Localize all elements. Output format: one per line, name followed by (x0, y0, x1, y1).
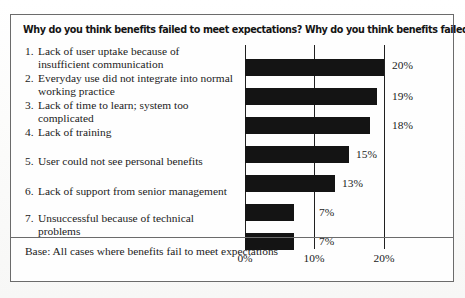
category-text-5: User could not see personal benefits (38, 155, 233, 168)
bar-1 (245, 59, 384, 76)
category-text-6: Lack of support from senior management (38, 185, 233, 198)
category-text-7: Unsuccessful because of technical proble… (38, 212, 233, 238)
xtick-label-20: 20% (374, 252, 395, 264)
category-label-2: 2. Everyday use did not integrate into n… (25, 72, 233, 98)
category-label-3: 3. Lack of time to learn; system too com… (25, 99, 233, 125)
category-number-2: 2. (25, 72, 38, 85)
bar-value-3: 18% (392, 119, 413, 131)
category-label-7: 7. Unsuccessful because of technical pro… (25, 212, 233, 238)
category-text-1: Lack of user uptake because of insuffici… (38, 45, 233, 71)
category-text-2: Everyday use did not integrate into norm… (38, 72, 233, 98)
category-number-5: 5. (25, 155, 38, 168)
category-number-1: 1. (25, 45, 38, 58)
category-text-3: Lack of time to learn; system too compli… (38, 99, 233, 125)
bar-value-2: 19% (392, 90, 413, 102)
category-label-6: 6. Lack of support from senior managemen… (25, 185, 233, 198)
category-number-3: 3. (25, 99, 38, 112)
bar-value-6: 7% (319, 206, 334, 218)
gridline-20 (384, 45, 385, 249)
bar-value-4: 15% (356, 148, 377, 160)
plot-area: 20% 19% 18% 15% 13% 7% 7% 0% 10% 20% (234, 47, 449, 259)
category-number-4: 4. (25, 126, 38, 139)
chart-frame: Why do you think benefits failed to meet… (10, 14, 454, 282)
category-number-6: 6. (25, 185, 38, 198)
footer-divider (11, 237, 453, 238)
bar-4 (245, 146, 349, 163)
bar-3 (245, 117, 370, 134)
xtick-label-10: 10% (304, 252, 325, 264)
chart-title: Why do you think benefits failed to meet… (23, 23, 416, 35)
bar-value-5: 13% (342, 177, 363, 189)
category-label-1: 1. Lack of user uptake because of insuff… (25, 45, 233, 71)
category-label-list: 1. Lack of user uptake because of insuff… (25, 45, 233, 250)
category-label-5: 5. User could not see personal benefits (25, 155, 233, 168)
bar-6 (245, 204, 294, 221)
bar-5 (245, 175, 335, 192)
category-text-4: Lack of training (38, 126, 233, 139)
bar-2 (245, 88, 377, 105)
category-number-7: 7. (25, 212, 38, 225)
plot-inner: 20% 19% 18% 15% 13% 7% 7% 0% 10% 20% (245, 47, 385, 247)
base-note: Base: All cases where benefits fail to m… (25, 245, 278, 257)
category-label-4: 4. Lack of training (25, 126, 233, 139)
bar-value-1: 20% (392, 59, 413, 71)
